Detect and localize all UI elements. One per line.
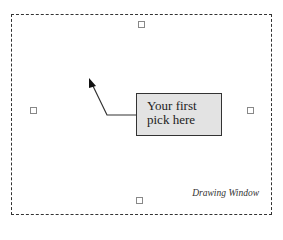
callout-line-2: pick here xyxy=(147,113,221,127)
callout-line-1: Your first xyxy=(147,99,221,113)
callout-box: Your first pick here xyxy=(136,93,222,136)
